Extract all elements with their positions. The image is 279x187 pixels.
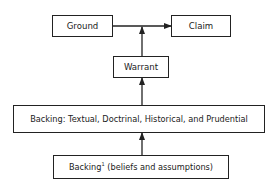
backing1-label-rest: (beliefs and assumptions) (105, 162, 213, 172)
backing1-label-main: Backing (69, 162, 102, 172)
backing-label: Backing: Textual, Doctrinal, Historical,… (30, 114, 248, 124)
claim-node: Claim (171, 15, 231, 37)
ground-node: Ground (52, 15, 113, 37)
ground-label: Ground (67, 21, 99, 31)
backing-node: Backing: Textual, Doctrinal, Historical,… (13, 105, 265, 133)
warrant-node: Warrant (113, 56, 169, 78)
claim-label: Claim (189, 21, 213, 31)
warrant-label: Warrant (124, 62, 158, 72)
backing1-node: Backing1 (beliefs and assumptions) (53, 155, 229, 179)
backing1-label: Backing1 (beliefs and assumptions) (69, 162, 213, 172)
